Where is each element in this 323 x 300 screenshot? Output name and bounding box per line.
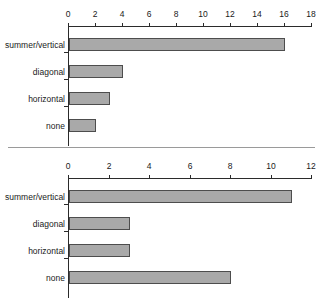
y-axis-category-label: horizontal	[28, 94, 65, 104]
x-axis-tick	[109, 175, 110, 178]
y-axis-category-label: horizontal	[28, 246, 65, 256]
x-axis-tick	[95, 23, 96, 26]
x-axis-tick	[311, 23, 312, 26]
y-axis-tick	[64, 258, 68, 259]
bar	[69, 119, 96, 132]
x-axis-tick-label: 10	[191, 10, 215, 19]
plot-area-bottom: 024681012summer/verticaldiagonalhorizont…	[0, 152, 323, 300]
y-axis-category-label: summer/vertical	[5, 40, 65, 50]
x-axis-tick	[203, 23, 204, 26]
x-axis-tick-label: 8	[164, 10, 188, 19]
y-axis-tick	[64, 79, 68, 80]
y-axis-tick	[64, 231, 68, 232]
bar	[69, 244, 130, 257]
y-axis-category-label: none	[46, 121, 65, 131]
x-axis-tick-label: 12	[218, 10, 242, 19]
figure: 024681012141618summer/verticaldiagonalho…	[0, 0, 323, 300]
x-axis-tick-label: 12	[299, 162, 323, 171]
x-axis-tick	[68, 175, 69, 178]
x-axis-tick-label: 0	[56, 10, 80, 19]
x-axis-tick	[149, 175, 150, 178]
bar-chart-bottom: 024681012summer/verticaldiagonalhorizont…	[0, 152, 323, 300]
x-axis-tick-label: 0	[56, 162, 80, 171]
x-axis-tick	[271, 175, 272, 178]
x-axis-tick-label: 6	[137, 10, 161, 19]
x-axis-tick	[311, 175, 312, 178]
y-axis-tick	[64, 106, 68, 107]
panel-divider	[8, 147, 315, 148]
x-axis-tick-label: 6	[178, 162, 202, 171]
x-axis-tick-label: 16	[272, 10, 296, 19]
x-axis-tick	[149, 23, 150, 26]
x-axis-tick	[176, 23, 177, 26]
y-axis-category-label: summer/vertical	[5, 192, 65, 202]
x-axis-tick	[190, 175, 191, 178]
x-axis-tick	[230, 175, 231, 178]
bar	[69, 65, 123, 78]
x-axis-tick	[68, 23, 69, 26]
x-axis-tick-label: 8	[218, 162, 242, 171]
y-axis-category-label: none	[46, 273, 65, 283]
bar-chart-top: 024681012141618summer/verticaldiagonalho…	[0, 0, 323, 148]
x-axis-tick-label: 4	[137, 162, 161, 171]
x-axis-tick	[284, 23, 285, 26]
x-axis-tick	[257, 23, 258, 26]
x-axis-tick-label: 18	[299, 10, 323, 19]
y-axis-tick	[64, 52, 68, 53]
x-axis-tick-label: 4	[110, 10, 134, 19]
y-axis-tick	[64, 204, 68, 205]
bar	[69, 190, 292, 203]
bar	[69, 38, 285, 51]
x-axis-tick-label: 14	[245, 10, 269, 19]
bar	[69, 217, 130, 230]
x-axis-tick-label: 10	[259, 162, 283, 171]
x-axis-tick-label: 2	[83, 10, 107, 19]
x-axis-tick	[122, 23, 123, 26]
x-axis-tick-label: 2	[97, 162, 121, 171]
y-axis-category-label: diagonal	[33, 67, 65, 77]
bar	[69, 271, 231, 284]
y-axis-category-label: diagonal	[33, 219, 65, 229]
plot-area-top: 024681012141618summer/verticaldiagonalho…	[0, 0, 323, 148]
x-axis-line	[68, 178, 312, 179]
bar	[69, 92, 110, 105]
x-axis-line	[68, 26, 312, 27]
x-axis-tick	[230, 23, 231, 26]
